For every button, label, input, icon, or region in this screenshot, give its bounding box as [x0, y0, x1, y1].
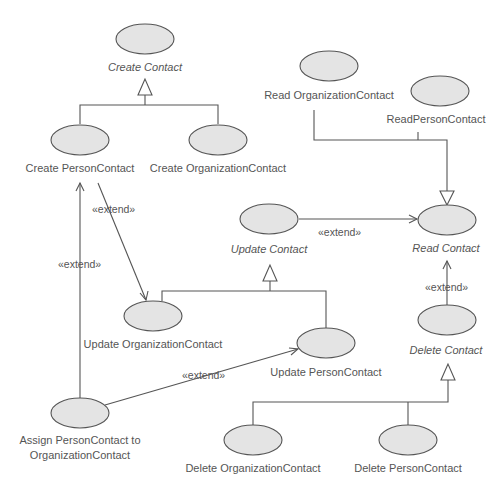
use-case-update-organization-contact[interactable]: Update OrganizationContact: [84, 301, 223, 350]
use-case-label: ReadPersonContact: [386, 113, 485, 125]
use-case-delete-contact[interactable]: Delete Contact: [410, 305, 484, 356]
use-case-diagram: «extend» «extend» «extend» «extend» «ext…: [0, 0, 496, 499]
use-case-label: Update PersonContact: [270, 366, 381, 378]
use-case-create-organization-contact[interactable]: Create OrganizationContact: [150, 125, 286, 174]
generalization-create-contact: [80, 79, 218, 124]
use-case-delete-person-contact[interactable]: Delete PersonContact: [354, 425, 462, 474]
use-case-label: Read OrganizationContact: [264, 89, 394, 101]
use-case-create-person-contact[interactable]: Create PersonContact: [26, 125, 135, 174]
extend-create-person-to-update-org: «extend»: [92, 183, 148, 300]
extend-assign-to-create-person: «extend»: [58, 183, 101, 398]
extend-label: «extend»: [425, 281, 468, 293]
extend-label: «extend»: [92, 203, 135, 215]
extend-label: «extend»: [58, 258, 101, 270]
extend-label: «extend»: [318, 226, 361, 238]
use-case-label: Read Contact: [412, 242, 480, 254]
use-case-update-contact[interactable]: Update Contact: [231, 204, 308, 255]
use-case-label-line1: Assign PersonContact to: [19, 434, 140, 446]
extend-label: «extend»: [182, 369, 225, 381]
use-case-label: Create Contact: [108, 61, 183, 73]
extend-update-to-read: «extend»: [299, 215, 417, 238]
use-case-label: Update OrganizationContact: [84, 338, 223, 350]
use-case-label: Delete Contact: [410, 344, 484, 356]
use-case-read-person-contact[interactable]: ReadPersonContact: [386, 76, 485, 125]
use-case-label: Create OrganizationContact: [150, 162, 286, 174]
use-case-label: Update Contact: [231, 243, 308, 255]
use-case-label: Delete PersonContact: [354, 462, 462, 474]
extend-delete-to-read: «extend»: [425, 261, 468, 305]
use-case-delete-organization-contact[interactable]: Delete OrganizationContact: [185, 425, 320, 474]
use-case-create-contact[interactable]: Create Contact: [108, 24, 183, 73]
use-case-read-organization-contact[interactable]: Read OrganizationContact: [264, 51, 394, 101]
use-case-assign-person-to-organization[interactable]: Assign PersonContact to OrganizationCont…: [19, 398, 140, 461]
use-case-label-line2: OrganizationContact: [30, 449, 130, 461]
generalization-update-contact: [162, 265, 326, 328]
use-case-label: Delete OrganizationContact: [185, 462, 320, 474]
use-case-label: Create PersonContact: [26, 162, 135, 174]
use-case-update-person-contact[interactable]: Update PersonContact: [270, 328, 381, 378]
use-case-read-contact[interactable]: Read Contact: [412, 205, 480, 254]
extend-assign-to-update-person: «extend»: [105, 348, 298, 405]
